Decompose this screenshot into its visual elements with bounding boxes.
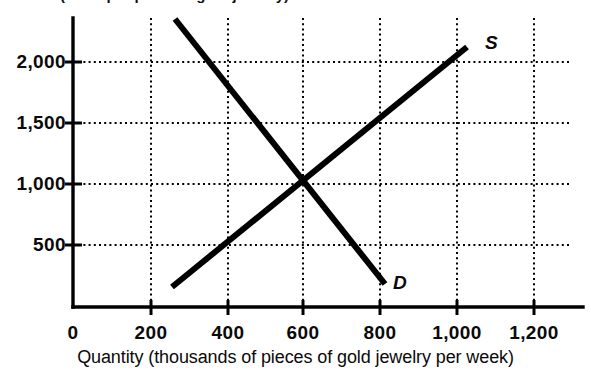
- x-axis-label-1000: 1,000: [422, 322, 492, 344]
- x-axis-label-600: 600: [268, 322, 338, 344]
- demand-curve: [175, 19, 385, 284]
- y-axis-label-1000: 1,000: [2, 173, 66, 195]
- y-axis-label-2000: 2,000: [2, 51, 66, 73]
- demand-curve-label: D: [393, 272, 407, 294]
- x-axis-label-400: 400: [193, 322, 263, 344]
- y-axis-label-1500: 1,500: [2, 112, 66, 134]
- supply-curve-label: S: [485, 32, 498, 54]
- x-axis-label-0: 0: [38, 322, 108, 344]
- supply-demand-chart: (Price per piece of gold jewelry): [0, 0, 591, 377]
- horizontal-gridlines: [73, 62, 572, 245]
- y-axis-label-500: 500: [2, 234, 66, 256]
- plot-area: [0, 0, 591, 377]
- x-axis-label-800: 800: [345, 322, 415, 344]
- x-axis-label-1200: 1,200: [499, 322, 569, 344]
- x-axis-label-200: 200: [116, 322, 186, 344]
- x-axis-title: Quantity (thousands of pieces of gold je…: [0, 347, 591, 368]
- supply-curve: [172, 47, 467, 287]
